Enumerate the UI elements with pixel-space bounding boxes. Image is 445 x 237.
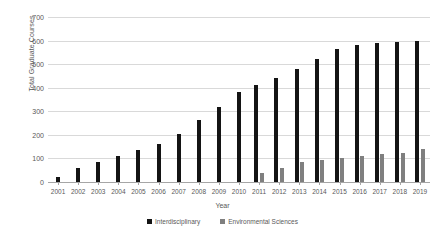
- y-axis-tick-label: 200: [14, 131, 44, 138]
- bar-interdisciplinary: [395, 42, 399, 182]
- bar-group: [309, 17, 329, 182]
- bar-environmental-sciences: [421, 149, 425, 182]
- bar-interdisciplinary: [295, 69, 299, 182]
- bar-group: [149, 17, 169, 182]
- bar-group: [249, 17, 269, 182]
- bar-interdisciplinary: [177, 134, 181, 182]
- y-axis-tick-label: 100: [14, 155, 44, 162]
- x-axis-tick-mark: [98, 182, 99, 185]
- bar-environmental-sciences: [260, 173, 264, 182]
- y-axis-tick-label: 0: [14, 179, 44, 186]
- y-axis-tick-label: 600: [14, 37, 44, 44]
- legend-label: Environmental Sciences: [228, 218, 298, 225]
- bar-group: [410, 17, 430, 182]
- bar-group: [169, 17, 189, 182]
- bar-environmental-sciences: [380, 154, 384, 182]
- x-axis-tick-mark: [319, 182, 320, 185]
- y-axis-tick-label: 400: [14, 84, 44, 91]
- bar-group: [350, 17, 370, 182]
- bar-environmental-sciences: [360, 156, 364, 182]
- x-axis-tick-mark: [340, 182, 341, 185]
- bar-interdisciplinary: [217, 107, 221, 182]
- bar-interdisciplinary: [197, 120, 201, 182]
- bar-interdisciplinary: [355, 45, 359, 182]
- legend-label: Interdisciplinary: [155, 218, 200, 225]
- chart-legend: InterdisciplinaryEnvironmental Sciences: [0, 218, 445, 225]
- x-axis-tick-mark: [159, 182, 160, 185]
- x-axis-tick-mark: [279, 182, 280, 185]
- x-axis-tick-mark: [400, 182, 401, 185]
- x-axis-tick-mark: [58, 182, 59, 185]
- x-axis-tick-label: 2019: [400, 188, 440, 195]
- bar-interdisciplinary: [274, 78, 278, 182]
- legend-swatch: [147, 219, 152, 224]
- x-axis-tick-mark: [199, 182, 200, 185]
- y-axis-tick-label: 500: [14, 61, 44, 68]
- bar-environmental-sciences: [320, 160, 324, 182]
- bar-group: [390, 17, 410, 182]
- bar-group: [189, 17, 209, 182]
- bar-group: [370, 17, 390, 182]
- bar-group: [209, 17, 229, 182]
- bar-environmental-sciences: [280, 168, 284, 182]
- y-axis-tick-label: 300: [14, 108, 44, 115]
- x-axis-tick-mark: [239, 182, 240, 185]
- bar-interdisciplinary: [116, 156, 120, 182]
- bar-group: [329, 17, 349, 182]
- bar-environmental-sciences: [401, 153, 405, 182]
- bar-interdisciplinary: [375, 43, 379, 182]
- x-axis-title: Year: [0, 202, 445, 209]
- plot-area: 0100200300400500600700: [48, 17, 430, 182]
- x-axis-tick-mark: [219, 182, 220, 185]
- bar-interdisciplinary: [157, 144, 161, 182]
- bar-interdisciplinary: [76, 168, 80, 182]
- legend-item[interactable]: Environmental Sciences: [220, 218, 298, 225]
- y-axis-tick-label: 700: [14, 14, 44, 21]
- bar-interdisciplinary: [96, 162, 100, 182]
- x-axis-tick-mark: [138, 182, 139, 185]
- bar-interdisciplinary: [254, 85, 258, 182]
- x-axis-tick-mark: [259, 182, 260, 185]
- bar-interdisciplinary: [415, 41, 419, 182]
- bar-interdisciplinary: [237, 92, 241, 182]
- bar-interdisciplinary: [315, 59, 319, 182]
- legend-item[interactable]: Interdisciplinary: [147, 218, 200, 225]
- x-axis-tick-mark: [360, 182, 361, 185]
- x-axis-tick-mark: [118, 182, 119, 185]
- x-axis-tick-mark: [179, 182, 180, 185]
- x-axis-tick-mark: [420, 182, 421, 185]
- bar-group: [48, 17, 68, 182]
- bar-group: [108, 17, 128, 182]
- bar-group: [269, 17, 289, 182]
- bar-interdisciplinary: [335, 49, 339, 182]
- bar-environmental-sciences: [340, 158, 344, 182]
- bar-group: [88, 17, 108, 182]
- x-axis-tick-mark: [78, 182, 79, 185]
- bar-environmental-sciences: [300, 162, 304, 182]
- bar-group: [68, 17, 88, 182]
- x-axis-tick-mark: [299, 182, 300, 185]
- bar-chart: Total Graduate Courses 01002003004005006…: [0, 0, 445, 237]
- bar-group: [128, 17, 148, 182]
- bar-group: [229, 17, 249, 182]
- bar-interdisciplinary: [136, 150, 140, 182]
- x-axis-tick-mark: [380, 182, 381, 185]
- bar-group: [289, 17, 309, 182]
- legend-swatch: [220, 219, 225, 224]
